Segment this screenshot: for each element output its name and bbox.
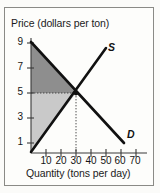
y-tick-label-9: 9	[11, 36, 23, 47]
x-tick-label-40: 40	[83, 155, 99, 166]
x-tick-label-20: 20	[53, 155, 69, 166]
equilibrium-point	[74, 91, 79, 96]
x-axis-title: Quantity (tons per day)	[26, 167, 131, 179]
demand-curve-label: D	[127, 128, 135, 140]
supply-demand-figure: Price (dollars per ton) Quantity (tons p…	[0, 0, 160, 193]
x-tick-label-70: 70	[127, 155, 143, 166]
supply-curve-label: S	[108, 41, 115, 53]
y-tick-label-7: 7	[11, 61, 23, 72]
x-tick-label-60: 60	[112, 155, 128, 166]
x-tick-label-10: 10	[38, 155, 54, 166]
y-axis-title: Price (dollars per ton)	[11, 17, 109, 29]
y-tick-label-1: 1	[11, 136, 23, 147]
x-tick-label-30: 30	[68, 155, 84, 166]
y-tick-label-3: 3	[11, 111, 23, 122]
y-tick-label-5: 5	[11, 86, 23, 97]
